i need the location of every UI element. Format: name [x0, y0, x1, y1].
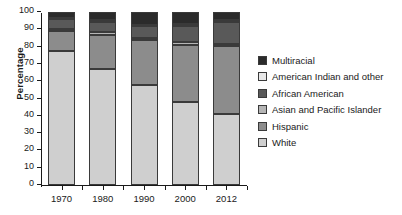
y-axis-tick: 90 — [37, 28, 41, 29]
legend-label: White — [272, 137, 296, 148]
bar-segment — [213, 22, 240, 43]
bar-segment — [172, 42, 199, 45]
x-axis-tick-label: 1990 — [124, 193, 164, 204]
x-axis-minor-tick — [247, 186, 248, 190]
bar-1990 — [131, 12, 158, 185]
legend-swatch-icon — [258, 89, 267, 98]
x-axis-tick — [185, 186, 186, 190]
bar-segment — [48, 12, 75, 18]
y-axis-tick: 0 — [37, 184, 41, 185]
bar-2000 — [172, 12, 199, 185]
chart-legend: MultiracialAmerican Indian and otherAfri… — [258, 52, 400, 151]
bar-segment — [131, 26, 158, 37]
x-axis-tick — [103, 186, 104, 190]
x-axis-minor-tick — [123, 186, 124, 190]
y-axis-tick-label: 30 — [8, 126, 34, 137]
y-axis-tick: 60 — [37, 80, 41, 81]
legend-swatch-icon — [258, 56, 267, 65]
bar-segment — [131, 85, 158, 185]
legend-item: American Indian and other — [258, 69, 400, 86]
bar-segment — [89, 32, 116, 35]
legend-label: Hispanic — [272, 121, 308, 132]
bar-1970 — [48, 12, 75, 185]
bar-segment — [172, 102, 199, 185]
bar-segment — [172, 26, 199, 42]
bar-segment — [131, 38, 158, 41]
x-axis-tick — [144, 186, 145, 190]
bar-segment — [48, 19, 75, 29]
y-axis-tick: 80 — [37, 46, 41, 47]
y-axis-tick-label: 100 — [8, 5, 34, 16]
bar-segment — [213, 20, 240, 22]
bar-segment — [172, 45, 199, 102]
x-axis-tick — [62, 186, 63, 190]
legend-item: White — [258, 135, 400, 152]
x-axis-minor-tick — [82, 186, 83, 190]
x-axis-minor-tick — [206, 186, 207, 190]
x-axis-tick-label: 2000 — [165, 193, 205, 204]
legend-swatch-icon — [258, 138, 267, 147]
y-axis-tick: 30 — [37, 132, 41, 133]
y-axis-tick: 40 — [37, 115, 41, 116]
x-axis-tick-label: 1980 — [83, 193, 123, 204]
bar-segment — [172, 12, 199, 24]
legend-label: African American — [272, 88, 344, 99]
legend-label: American Indian and other — [272, 71, 383, 82]
bar-segment — [213, 114, 240, 185]
x-axis-tick-label: 2012 — [206, 193, 246, 204]
y-axis-tick: 50 — [37, 98, 41, 99]
legend-swatch-icon — [258, 72, 267, 81]
legend-swatch-icon — [258, 105, 267, 114]
legend-label: Asian and Pacific Islander — [272, 104, 381, 115]
x-axis-minor-tick — [165, 186, 166, 190]
y-axis-tick-label: 60 — [8, 74, 34, 85]
y-axis-tick: 10 — [37, 167, 41, 168]
y-axis-tick: 20 — [37, 149, 41, 150]
bar-segment — [131, 40, 158, 85]
bar-1980 — [89, 12, 116, 185]
bar-segment — [48, 31, 75, 51]
bar-segment — [213, 46, 240, 114]
y-axis-tick-label: 0 — [8, 178, 34, 189]
y-axis-tick-label: 50 — [8, 92, 34, 103]
bar-segment — [172, 24, 199, 26]
legend-item: Multiracial — [258, 52, 400, 69]
legend-label: Multiracial — [272, 55, 315, 66]
x-axis-tick-label: 1970 — [42, 193, 82, 204]
x-axis-tick — [226, 186, 227, 190]
bar-segment — [89, 12, 116, 20]
bar-2012 — [213, 12, 240, 185]
bar-segment — [213, 44, 240, 46]
legend-item: Asian and Pacific Islander — [258, 102, 400, 119]
y-axis-tick: 100 — [37, 11, 41, 12]
bar-segment — [89, 22, 116, 33]
bar-segment — [89, 35, 116, 69]
y-axis-tick-label: 80 — [8, 40, 34, 51]
y-axis-tick-label: 90 — [8, 22, 34, 33]
bar-segment — [48, 51, 75, 185]
legend-swatch-icon — [258, 122, 267, 131]
y-axis-tick-label: 10 — [8, 161, 34, 172]
plot-area: 0102030405060708090100 19701980199020002… — [41, 13, 247, 186]
y-axis-line — [41, 13, 42, 187]
y-axis-tick: 70 — [37, 63, 41, 64]
y-axis-tick-label: 40 — [8, 109, 34, 120]
y-axis-tick-label: 70 — [8, 57, 34, 68]
y-axis-tick-label: 20 — [8, 143, 34, 154]
bar-segment — [131, 12, 158, 25]
bar-segment — [213, 12, 240, 20]
legend-item: Hispanic — [258, 118, 400, 135]
stacked-bar-chart: Percentage 0102030405060708090100 197019… — [0, 0, 402, 215]
bar-segment — [48, 29, 75, 31]
legend-item: African American — [258, 85, 400, 102]
bar-segment — [89, 69, 116, 185]
bar-segment — [131, 24, 158, 26]
